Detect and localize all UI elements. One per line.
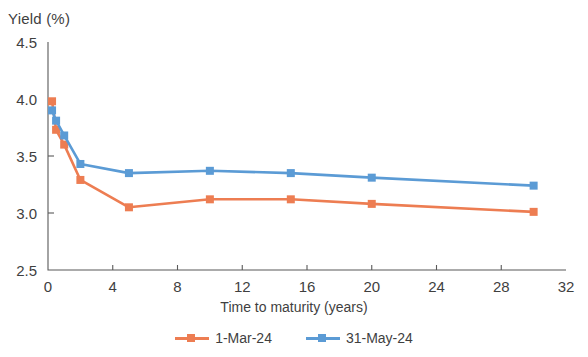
y-axis-tick-labels: 2.53.03.54.04.5 (16, 34, 37, 279)
data-point-marker (206, 195, 214, 203)
x-tick-label: 28 (493, 278, 510, 295)
chart-axes (48, 42, 566, 270)
yield-curve-chart: Yield (%) 2.53.03.54.04.5 04812162024283… (0, 0, 588, 357)
data-point-marker (76, 176, 84, 184)
legend-swatch-icon-series-1 (175, 331, 209, 345)
legend-swatch-icon-series-2 (306, 331, 340, 345)
legend-item-series-2[interactable]: 31-May-24 (306, 330, 413, 346)
x-tick-label: 12 (234, 278, 251, 295)
y-tick-label: 3.0 (16, 205, 37, 222)
data-point-marker (125, 203, 133, 211)
data-point-marker (125, 169, 133, 177)
x-tick-label: 32 (558, 278, 575, 295)
x-tick-label: 24 (428, 278, 445, 295)
x-tick-label: 16 (299, 278, 316, 295)
data-point-marker (60, 131, 68, 139)
y-tick-label: 3.5 (16, 148, 37, 165)
y-tick-label: 4.0 (16, 91, 37, 108)
data-point-marker (287, 169, 295, 177)
data-point-marker (76, 160, 84, 168)
x-tick-label: 8 (173, 278, 181, 295)
x-tick-label: 20 (363, 278, 380, 295)
data-point-marker (48, 106, 56, 114)
x-tick-label: 0 (44, 278, 52, 295)
y-tick-label: 4.5 (16, 34, 37, 51)
legend-label-series-2: 31-May-24 (346, 330, 413, 346)
chart-series-layer (48, 97, 538, 216)
data-point-marker (368, 200, 376, 208)
data-point-marker (52, 117, 60, 125)
legend-label-series-1: 1-Mar-24 (215, 330, 272, 346)
data-point-marker (368, 174, 376, 182)
data-point-marker (287, 195, 295, 203)
x-tick-label: 4 (109, 278, 117, 295)
chart-series-2 (48, 106, 538, 189)
chart-legend: 1-Mar-24 31-May-24 (0, 330, 588, 346)
data-point-marker (530, 182, 538, 190)
legend-item-series-1[interactable]: 1-Mar-24 (175, 330, 272, 346)
chart-series-1 (48, 97, 538, 216)
y-tick-label: 2.5 (16, 262, 37, 279)
data-point-marker (48, 97, 56, 105)
x-axis-tick-labels: 048121620242832 (44, 278, 575, 295)
x-axis-title: Time to maturity (years) (0, 299, 588, 315)
data-point-marker (530, 208, 538, 216)
data-point-marker (206, 167, 214, 175)
